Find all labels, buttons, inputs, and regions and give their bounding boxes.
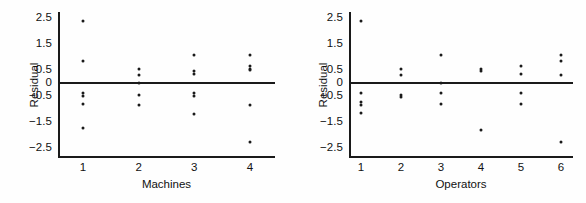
data-point: [360, 92, 363, 95]
x-tick-label: 4: [247, 162, 253, 174]
data-point: [248, 69, 251, 72]
y-tick-label: 0.5: [36, 64, 52, 76]
y-tick-label: 0.5: [327, 64, 343, 76]
y-tick-label: −0.5: [320, 90, 343, 102]
data-point: [193, 53, 196, 56]
data-point: [560, 60, 563, 63]
data-point: [360, 20, 363, 23]
y-tick-label: 1.5: [36, 39, 52, 51]
data-point: [360, 104, 363, 107]
data-point: [248, 53, 251, 56]
data-point: [400, 67, 403, 70]
data-point: [82, 60, 85, 63]
data-point: [193, 113, 196, 116]
data-point: [440, 102, 443, 105]
data-point: [82, 127, 85, 130]
data-point: [193, 94, 196, 97]
data-point: [480, 70, 483, 73]
data-point: [440, 82, 443, 85]
data-point: [560, 53, 563, 56]
y-tick-label: 0: [337, 77, 344, 89]
data-point: [137, 82, 140, 85]
x-tick-label: 4: [478, 162, 484, 174]
y-tick-label: 1.5: [327, 39, 343, 51]
y-tick-label: −0.5: [29, 90, 52, 102]
x-tick-label: 2: [398, 162, 404, 174]
data-point: [360, 111, 363, 114]
figure-canvas: Residual Machines 2.51.50.50−0.5−1.5−2.5…: [0, 0, 586, 203]
x-tick-label: 6: [558, 162, 564, 174]
y-axis-line: [349, 12, 351, 158]
x-tick-label: 5: [518, 162, 524, 174]
x-axis-title: Machines: [142, 178, 191, 190]
x-axis-line: [349, 156, 573, 158]
data-point: [560, 141, 563, 144]
y-tick-label: −2.5: [29, 142, 52, 154]
plot-area-machines: Residual Machines 2.51.50.50−0.5−1.5−2.5…: [58, 12, 275, 158]
y-tick-label: −1.5: [320, 116, 343, 128]
data-point: [248, 104, 251, 107]
data-point: [520, 65, 523, 68]
data-point: [440, 92, 443, 95]
data-point: [137, 93, 140, 96]
y-axis-line: [58, 12, 60, 158]
data-point: [480, 128, 483, 131]
y-tick-label: −2.5: [320, 142, 343, 154]
data-point: [520, 73, 523, 76]
data-point: [137, 67, 140, 70]
data-point: [82, 94, 85, 97]
data-point: [400, 74, 403, 77]
data-point: [520, 102, 523, 105]
data-point: [560, 74, 563, 77]
zero-reference-line: [58, 82, 275, 84]
y-tick-label: −1.5: [29, 116, 52, 128]
data-point: [193, 73, 196, 76]
x-axis-title: Operators: [435, 178, 486, 190]
data-point: [137, 104, 140, 107]
y-tick-label: 0: [46, 77, 53, 89]
data-point: [400, 96, 403, 99]
x-tick-label: 2: [135, 162, 141, 174]
data-point: [137, 74, 140, 77]
data-point: [82, 20, 85, 23]
data-point: [440, 53, 443, 56]
y-tick-label: 2.5: [36, 13, 52, 25]
data-point: [82, 102, 85, 105]
y-tick-label: 2.5: [327, 13, 343, 25]
x-axis-line: [58, 156, 275, 158]
residual-plot-machines: Residual Machines 2.51.50.50−0.5−1.5−2.5…: [0, 0, 293, 203]
x-tick-label: 1: [80, 162, 86, 174]
x-tick-label: 3: [438, 162, 444, 174]
x-tick-label: 3: [191, 162, 197, 174]
zero-reference-line: [349, 82, 573, 84]
data-point: [248, 141, 251, 144]
x-tick-label: 1: [358, 162, 364, 174]
data-point: [520, 92, 523, 95]
plot-area-operators: Residual Operators 2.51.50.50−0.5−1.5−2.…: [349, 12, 573, 158]
residual-plot-operators: Residual Operators 2.51.50.50−0.5−1.5−2.…: [293, 0, 586, 203]
